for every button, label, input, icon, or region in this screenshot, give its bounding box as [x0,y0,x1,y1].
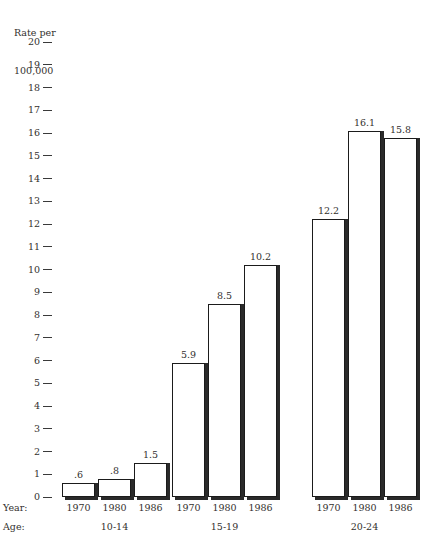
x-axis-tick-label: 1986 [238,502,283,513]
bar-value-label: 12.2 [306,205,351,216]
bar [98,479,131,497]
bar-value-label: 15.8 [378,124,423,135]
group-label: 10-14 [62,521,167,532]
bar [312,219,345,497]
bar-value-label: 5.9 [166,349,211,360]
x-axis-tick-label: 1986 [378,502,423,513]
group-label: 15-19 [172,521,277,532]
group-label: 20-24 [312,521,417,532]
bar [134,463,167,497]
bar-chart: Rate per 100,000 20191817161514131211109… [0,0,442,538]
bar [384,138,417,497]
bar-value-label: .8 [92,465,137,476]
plot-area: .61970.819801.5198610-145.919708.5198010… [0,0,442,538]
bar [348,131,381,497]
bar [244,265,277,497]
bar [208,304,241,497]
bar [62,483,95,497]
row-label-year: Year: [3,502,27,513]
row-label-age: Age: [3,521,25,532]
bar-value-label: 8.5 [202,290,247,301]
bar-value-label: 10.2 [238,251,283,262]
bar [172,363,205,497]
bar-value-label: 1.5 [128,449,173,460]
